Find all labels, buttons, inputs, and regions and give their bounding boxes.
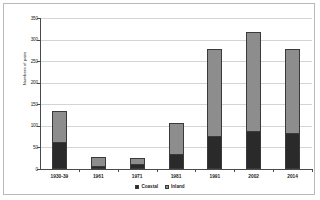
x-tick-mark [79,169,80,172]
y-tick-mark [37,104,40,105]
bar-group[interactable] [246,32,261,169]
y-tick-label: 350 [22,16,38,21]
bar-group[interactable] [285,49,300,169]
bar-segment-coastal[interactable] [170,154,183,168]
bar-segment-coastal[interactable] [131,164,144,168]
x-axis-line [40,169,312,170]
gridline [40,104,312,105]
x-tick-mark [118,169,119,172]
legend-label: Coastal [141,184,158,189]
gridline [40,40,312,41]
y-tick-label: 100 [22,123,38,128]
bar-segment-coastal[interactable] [208,136,221,168]
x-tick-label: 1981 [157,174,196,180]
chart-frame: 050100150200250300350 Numbers of pairs 1… [3,3,315,195]
chart-legend: CoastalInland [4,184,316,189]
y-tick-mark [37,169,40,170]
x-tick-mark [157,169,158,172]
x-tick-mark [234,169,235,172]
bar-segment-coastal[interactable] [286,133,299,168]
x-tick-mark [273,169,274,172]
x-tick-label: 2002 [234,174,273,180]
bar-group[interactable] [52,111,67,169]
bar-stack[interactable] [207,49,222,169]
legend-swatch-icon [135,185,139,189]
y-tick-label: 150 [22,102,38,107]
bar-segment-coastal[interactable] [92,166,105,168]
x-tick-label: 1991 [195,174,234,180]
x-tick-label: 2014 [273,174,312,180]
y-tick-mark [37,40,40,41]
bar-segment-inland[interactable] [247,33,260,131]
y-axis-tick-labels: 050100150200250300350 [18,4,38,200]
bar-segment-coastal[interactable] [247,131,260,168]
x-tick-label: 1971 [118,174,157,180]
x-tick-mark [195,169,196,172]
bar-stack[interactable] [91,157,106,169]
y-tick-mark [37,83,40,84]
x-tick-label: 1961 [79,174,118,180]
bar-stack[interactable] [285,49,300,169]
gridline [40,61,312,62]
bar-stack[interactable] [130,158,145,169]
bar-segment-inland[interactable] [286,50,299,133]
legend-entry[interactable]: Coastal [135,184,158,189]
y-tick-mark [37,61,40,62]
bar-segment-inland[interactable] [92,158,105,165]
x-tick-mark [312,169,313,172]
bar-segment-inland[interactable] [53,112,66,142]
bar-group[interactable] [91,157,106,169]
plot-area [40,18,312,169]
bar-group[interactable] [130,158,145,169]
gridline [40,18,312,19]
bar-segment-inland[interactable] [208,50,221,136]
bar-group[interactable] [207,49,222,169]
bar-segment-inland[interactable] [170,124,183,153]
legend-label: Inland [171,184,185,189]
bar-group[interactable] [169,123,184,169]
bar-stack[interactable] [169,123,184,169]
bar-stack[interactable] [52,111,67,169]
bar-stack[interactable] [246,32,261,169]
x-tick-label: 1930-39 [40,174,79,180]
y-tick-mark [37,126,40,127]
y-tick-mark [37,18,40,19]
legend-entry[interactable]: Inland [165,184,185,189]
y-tick-label: 0 [22,167,38,172]
bar-segment-coastal[interactable] [53,142,66,168]
y-tick-mark [37,147,40,148]
legend-swatch-icon [165,185,169,189]
gridline [40,83,312,84]
y-tick-label: 50 [22,145,38,150]
y-axis-line [40,18,41,170]
y-axis-title: Numbers of pairs [22,39,27,99]
